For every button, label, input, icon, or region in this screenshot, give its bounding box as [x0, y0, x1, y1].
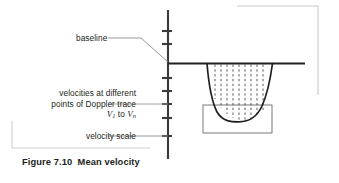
label-baseline: baseline	[76, 33, 107, 44]
baseline-leader-diagonal	[141, 38, 168, 62]
symbol-to: to	[115, 109, 127, 119]
label-velocity-scale: velocity scale	[56, 131, 136, 142]
figure-container: baseline velocities at different points …	[0, 0, 339, 183]
label-velocities-line1: velocities at different	[59, 88, 136, 98]
velocity-sample-lines	[215, 65, 263, 122]
symbol-vn-subscript: n	[133, 112, 136, 119]
outer-frame-top-right	[237, 6, 318, 95]
velocity-scale-box	[203, 105, 272, 133]
label-velocities-symbols: V1 to Vn	[107, 109, 136, 119]
doppler-trace-envelope	[207, 64, 273, 122]
label-velocities: velocities at different points of Dopple…	[26, 88, 136, 122]
label-velocities-line2: points of Doppler trace	[51, 99, 136, 109]
figure-caption: Figure 7.10 Mean velocity	[22, 157, 140, 167]
